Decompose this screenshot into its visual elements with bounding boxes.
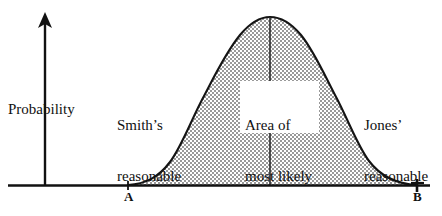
annotation-compromise-line-2: most likely: [245, 168, 319, 185]
annotation-jones-line-1: Jones’: [364, 117, 428, 134]
annotation-smith-line-1: Smith’s: [117, 117, 181, 134]
annotation-compromise-text: Area of most likely compromise: [245, 83, 319, 216]
annotation-jones-line-2: reasonable: [364, 168, 428, 185]
probability-bell-curve-figure: Probability Smith’s reasonable position …: [0, 0, 442, 216]
annotation-compromise-callout: Area of most likely compromise: [240, 81, 319, 133]
x-axis-tick-label-b: B: [413, 188, 422, 205]
annotation-smith-line-2: reasonable: [117, 168, 181, 185]
annotation-compromise-line-1: Area of: [245, 117, 319, 134]
x-axis-tick-label-a: A: [124, 188, 133, 205]
y-axis-label: Probability: [8, 101, 75, 118]
